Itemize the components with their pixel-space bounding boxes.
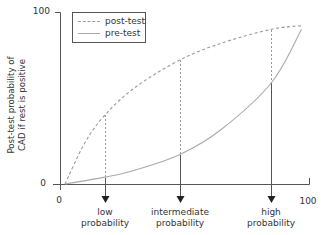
marker-label-intermediate: intermediate probability [140, 207, 220, 229]
y-axis-title: Post-test probability of CAD if rest is … [6, 45, 28, 165]
marker-line2: probability [236, 218, 306, 229]
x-max-label: 100 [296, 196, 320, 207]
x-min-label: 0 [54, 195, 64, 206]
y-max-label: 100 [30, 6, 50, 17]
arrow-down-icon [268, 196, 276, 203]
legend-label: post-test [105, 16, 145, 26]
marker-line1: low [70, 207, 140, 218]
marker-label-low: low probability [70, 207, 140, 229]
post-test-curve [65, 26, 302, 184]
marker-line1: high [236, 207, 306, 218]
legend-item-post-test: post-test [78, 16, 145, 27]
y-axis-title-line1: Post-test probability of [6, 45, 17, 165]
legend-label: pre-test [105, 28, 140, 38]
y-axis [55, 13, 61, 191]
arrow-down-icon [177, 196, 185, 203]
y-min-label: 0 [36, 178, 46, 189]
marker-line2: probability [140, 218, 220, 229]
pre-test-curve [65, 29, 302, 184]
marker-line1: intermediate [140, 207, 220, 218]
probability-chart [0, 0, 323, 235]
marker-label-high: high probability [236, 207, 306, 229]
solid-line-swatch-icon [78, 33, 100, 34]
legend: post-test pre-test [72, 12, 146, 43]
legend-item-pre-test: pre-test [78, 28, 140, 39]
arrow-down-icon [102, 196, 110, 203]
marker-line2: probability [70, 218, 140, 229]
y-axis-title-line2: CAD if rest is positive [17, 45, 28, 165]
dashed-line-swatch-icon [78, 21, 100, 22]
arrowheads [102, 196, 276, 203]
